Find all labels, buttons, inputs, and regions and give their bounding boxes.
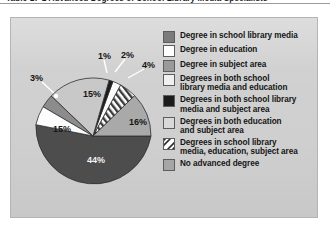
- legend-item-both-slm-education: Degrees in both schoollibrary media and …: [163, 74, 315, 93]
- legend-swatch-icon-7: [163, 159, 175, 171]
- legend-item-both-slm-subject: Degrees in both school librarymedia and …: [163, 95, 315, 114]
- pie-label-44-percent: 44%: [87, 156, 105, 165]
- legend-item-degree-school-library-media: Degree in school library media: [163, 30, 315, 43]
- legend-item-both-education-subject: Degrees in both educationand subject are…: [163, 116, 315, 135]
- legend-label-0: Degree in school library media: [180, 30, 298, 40]
- legend-swatch-icon-3: [163, 74, 175, 86]
- legend-item-no-advanced-degree: No advanced degree: [163, 159, 315, 172]
- leader-dots: [54, 94, 58, 98]
- legend-label-2: Degree in subject area: [180, 59, 266, 69]
- legend-swatch-icon-4: [163, 95, 175, 107]
- legend-label-7: No advanced degree: [180, 159, 259, 169]
- legend-label-3: Degrees in both schoollibrary media and …: [180, 74, 287, 93]
- pie-label-16-percent: 16%: [129, 118, 147, 127]
- legend-swatch-icon-2: [163, 60, 175, 72]
- legend-swatch-icon-1: [163, 45, 175, 57]
- pie-label-15-left: 15%: [53, 125, 71, 134]
- caption-divider: [0, 3, 330, 4]
- chart-legend: Degree in school library media Degree in…: [163, 30, 315, 173]
- pie-label-15-top: 15%: [83, 90, 101, 99]
- legend-label-5: Degrees in both educationand subject are…: [180, 116, 282, 135]
- chart-panel: 1% 2% 4% 3% 15% 16% 15% 44% Degree in sc…: [10, 17, 318, 218]
- pie-label-4-percent: 4%: [142, 61, 155, 70]
- legend-label-1: Degree in education: [180, 45, 257, 55]
- legend-label-6: Degrees in school librarymedia, educatio…: [180, 137, 298, 156]
- legend-swatch-icon-6: [163, 138, 175, 150]
- legend-item-degree-subject-area: Degree in subject area: [163, 59, 315, 72]
- pie-chart-area: 1% 2% 4% 3% 15% 16% 15% 44%: [11, 18, 171, 219]
- pie-label-3-percent: 3%: [30, 74, 43, 83]
- legend-item-degree-education: Degree in education: [163, 45, 315, 58]
- pie-label-2-percent: 2%: [121, 51, 134, 60]
- legend-label-4: Degrees in both school librarymedia and …: [180, 95, 296, 114]
- legend-item-all-three: Degrees in school librarymedia, educatio…: [163, 137, 315, 156]
- pie-label-1-percent: 1%: [98, 52, 111, 61]
- table-caption: Table 17-1 Advanced Degrees of School Li…: [0, 0, 330, 7]
- legend-swatch-icon-5: [163, 117, 175, 129]
- legend-swatch-icon-0: [163, 31, 175, 43]
